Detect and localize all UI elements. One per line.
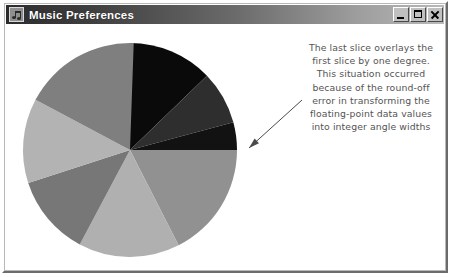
annotation-line-6: floating-point data values (289, 107, 444, 120)
music-note-icon (9, 7, 24, 22)
annotation-line-1: The last slice overlays the (289, 41, 444, 54)
annotation-line-4: because of the round-off (289, 81, 444, 94)
pie-slice-group (23, 43, 237, 257)
client-area: The last slice overlays thefirst slice b… (6, 24, 444, 269)
application-window: Music Preferences The last slice overlay… (2, 1, 448, 273)
maximize-button[interactable] (410, 7, 426, 22)
annotation-line-3: This situation occurred (289, 67, 444, 80)
annotation-line-2: first slice by one degree. (289, 54, 444, 67)
minimize-button[interactable] (393, 7, 409, 22)
annotation-line-7: into integer angle widths (289, 120, 444, 133)
annotation-line-5: error in transforming the (289, 94, 444, 107)
window-title: Music Preferences (29, 9, 392, 21)
window-inner-frame: Music Preferences The last slice overlay… (4, 3, 446, 271)
annotation-text: The last slice overlays thefirst slice b… (289, 41, 444, 133)
close-button[interactable] (427, 7, 443, 22)
title-bar[interactable]: Music Preferences (6, 5, 444, 24)
